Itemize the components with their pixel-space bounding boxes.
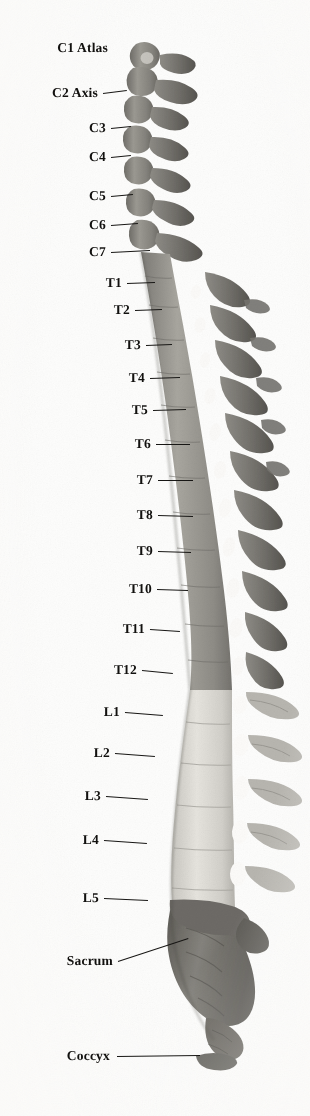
label-sacrum: Sacrum	[67, 953, 113, 969]
label-t1: T1	[106, 275, 122, 291]
label-t3: T3	[125, 337, 141, 353]
label-l3: L3	[85, 788, 101, 804]
label-t12: T12	[114, 662, 137, 678]
label-l2: L2	[94, 745, 110, 761]
label-t11: T11	[123, 621, 145, 637]
label-c7: C7	[89, 244, 106, 260]
spine-diagram: C1 AtlasC2 AxisC3C4C5C6C7T1T2T3T4T5T6T7T…	[0, 0, 310, 1116]
thoracic-region	[141, 252, 290, 690]
label-t6: T6	[135, 436, 151, 452]
sacrum-region	[167, 900, 269, 1026]
label-t8: T8	[137, 507, 153, 523]
label-c5: C5	[89, 188, 106, 204]
leader-line-t6	[156, 444, 190, 445]
lumbar-region	[171, 690, 302, 908]
label-c3: C3	[89, 120, 106, 136]
label-coccyx: Coccyx	[67, 1048, 110, 1064]
label-t10: T10	[129, 581, 152, 597]
label-t2: T2	[114, 302, 130, 318]
label-l4: L4	[83, 832, 99, 848]
label-l1: L1	[104, 704, 120, 720]
cervical-region	[123, 42, 203, 262]
leader-line-t7	[158, 480, 193, 481]
label-t7: T7	[137, 472, 153, 488]
label-t9: T9	[137, 543, 153, 559]
label-t4: T4	[129, 370, 145, 386]
label-c1: C1 Atlas	[57, 40, 108, 56]
label-t5: T5	[132, 402, 148, 418]
label-c2: C2 Axis	[52, 85, 98, 101]
label-c6: C6	[89, 217, 106, 233]
label-c4: C4	[89, 149, 106, 165]
label-l5: L5	[83, 890, 99, 906]
